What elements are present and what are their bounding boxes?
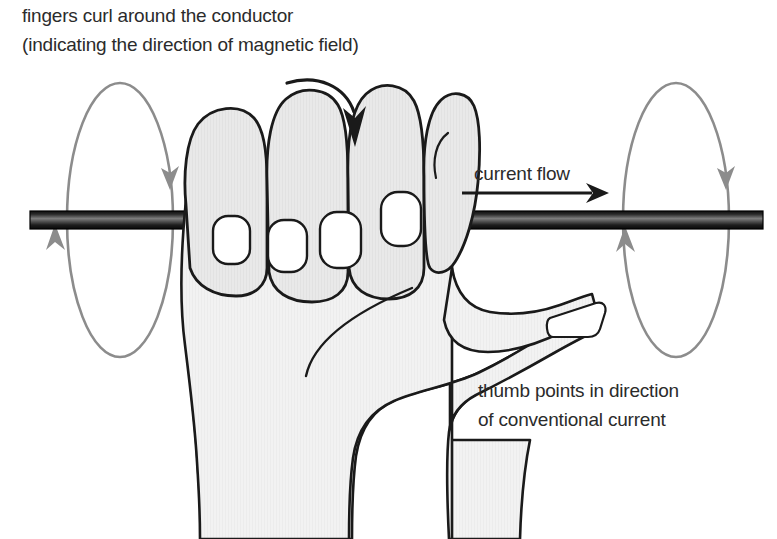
fingernail-ring: [320, 212, 361, 268]
thumb-note-line2: of conventional current: [478, 409, 667, 430]
right-hand-rule-diagram: fingers curl around the conductor (indic…: [0, 0, 777, 539]
finger-index: [185, 108, 267, 296]
fingernail-middle: [268, 220, 307, 272]
fingers-note-line2: (indicating the direction of magnetic fi…: [22, 34, 359, 55]
fingers-note-label: fingers curl around the conductor (indic…: [22, 5, 359, 55]
current-flow-arrow: [462, 183, 609, 203]
thumb-note-label: thumb points in direction of conventiona…: [478, 380, 679, 430]
field-loop-right-up-arrowhead: [616, 226, 635, 252]
fingernail-index: [213, 216, 250, 264]
fingernail-little: [381, 192, 421, 246]
fingers-note-line1: fingers curl around the conductor: [22, 5, 294, 26]
thumb-note-line1: thumb points in direction: [478, 380, 679, 401]
diagram-canvas: fingers curl around the conductor (indic…: [0, 0, 777, 539]
right-hand-gripping-conductor: [181, 86, 605, 539]
current-flow-label: current flow: [474, 163, 570, 184]
finger-little: [424, 94, 480, 273]
